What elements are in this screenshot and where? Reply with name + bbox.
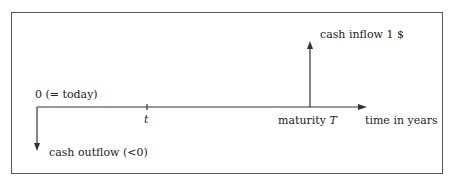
inflow-arrowhead-icon <box>307 41 313 49</box>
maturity-symbol: T <box>329 114 336 127</box>
outflow-label: cash outflow (<0) <box>49 146 148 159</box>
maturity-label-text: maturity <box>278 114 329 127</box>
outflow-arrowhead-icon <box>34 143 40 151</box>
maturity-label: maturity T <box>278 114 337 127</box>
inflow-label: cash inflow 1 $ <box>320 28 404 41</box>
time-axis-arrowhead-icon <box>358 104 367 110</box>
time-axis-label: time in years <box>365 114 438 127</box>
origin-label: 0 (= today) <box>35 88 98 101</box>
tick-label-t: t <box>144 113 148 126</box>
